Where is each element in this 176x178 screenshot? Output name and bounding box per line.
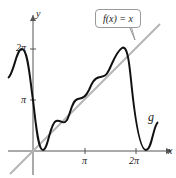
y-tick-pi: π xyxy=(21,94,26,105)
curve-g xyxy=(8,48,158,150)
y-axis-label: y xyxy=(36,8,40,19)
callout-f: f(x) = x xyxy=(95,9,141,28)
y-tick-2pi: 2π xyxy=(16,42,26,53)
graph: f(x) = x y x 2π π π 2π g xyxy=(0,0,176,178)
g-label: g xyxy=(148,110,154,125)
plot xyxy=(0,0,176,178)
x-axis-label: x xyxy=(168,145,172,156)
x-tick-pi: π xyxy=(82,155,87,166)
x-tick-2pi: 2π xyxy=(129,155,139,166)
